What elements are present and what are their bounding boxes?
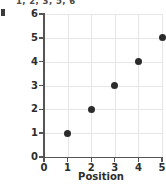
data-point bbox=[111, 82, 118, 89]
x-axis-tick-label: 4 bbox=[128, 163, 148, 173]
x-axis-tick-label: 3 bbox=[105, 163, 125, 173]
y-axis-tick-label: 0 bbox=[4, 152, 38, 162]
y-axis-tick-mark bbox=[39, 37, 44, 38]
y-axis-tick-label: 3 bbox=[4, 81, 38, 91]
x-axis-tick-label: 2 bbox=[81, 163, 101, 173]
y-axis-tick-mark bbox=[39, 61, 44, 62]
y-axis-tick-label-text: 0 bbox=[8, 152, 38, 162]
y-axis-tick-label-text: 6 bbox=[8, 9, 38, 19]
y-axis-tick-label-text: 3 bbox=[8, 81, 38, 91]
data-point bbox=[88, 106, 95, 113]
y-axis-tick-mark bbox=[39, 132, 44, 133]
x-axis-tick-label: 5 bbox=[152, 163, 166, 173]
y-axis-tick-label-text: 4 bbox=[8, 57, 38, 67]
x-axis-tick-label: 0 bbox=[34, 163, 54, 173]
y-axis-tick-mark bbox=[39, 109, 44, 110]
gridline-horizontal bbox=[44, 86, 162, 87]
gridline-vertical bbox=[91, 14, 92, 157]
gridline-horizontal bbox=[44, 133, 162, 134]
y-axis-tick-label: 6 bbox=[4, 9, 38, 19]
y-axis-tick-label: 4 bbox=[4, 57, 38, 67]
plot-area bbox=[44, 14, 162, 157]
y-axis-tick-label: 2 bbox=[4, 104, 38, 114]
data-point bbox=[64, 130, 71, 137]
gridline-horizontal bbox=[44, 38, 162, 39]
x-axis-tick-label: 1 bbox=[58, 163, 78, 173]
y-axis-tick-label: 1 bbox=[4, 128, 38, 138]
data-point bbox=[159, 34, 166, 41]
gridline-horizontal bbox=[44, 62, 162, 63]
y-axis-tick-label-text: 1 bbox=[8, 128, 38, 138]
data-point bbox=[135, 58, 142, 65]
y-axis-tick-mark bbox=[39, 13, 44, 14]
gridline-horizontal bbox=[44, 14, 162, 15]
gridline-horizontal bbox=[44, 109, 162, 110]
y-axis-tick-label-text: 2 bbox=[8, 104, 38, 114]
y-axis-tick-label: 5 bbox=[4, 33, 38, 43]
y-axis-tick-label-text: 5 bbox=[8, 33, 38, 43]
gridline-vertical bbox=[138, 14, 139, 157]
scatter-chart-figure: 1, 2, 3, 5, 6 Value of term Position 012… bbox=[0, 0, 166, 187]
y-axis-tick-mark bbox=[39, 85, 44, 86]
figure-caption: 1, 2, 3, 5, 6 bbox=[16, 0, 76, 6]
x-axis-spine bbox=[43, 157, 162, 159]
